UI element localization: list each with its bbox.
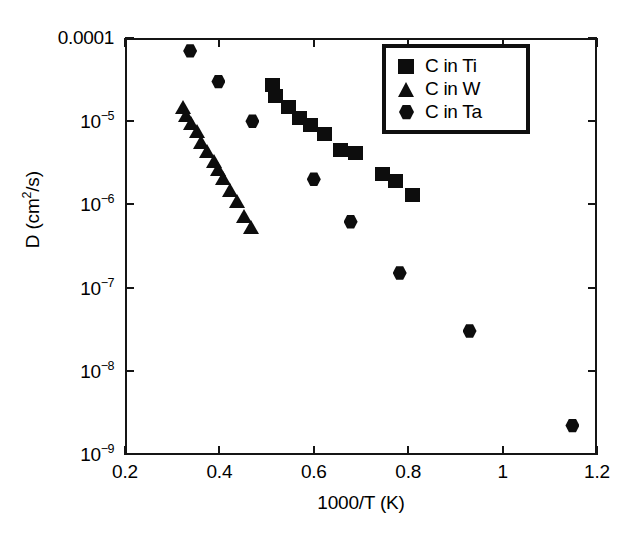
y-tick	[125, 203, 134, 205]
x-tick-label: 1.2	[584, 461, 610, 483]
y-tick-label: 10−7	[80, 276, 114, 299]
y-tick	[125, 453, 134, 455]
y-tick-label: 10−5	[80, 110, 114, 133]
y-tick	[125, 120, 134, 122]
y-tick	[588, 370, 597, 372]
y-tick	[588, 287, 597, 289]
y-tick	[125, 287, 134, 289]
x-tick-label: 0.8	[395, 461, 421, 483]
legend-item-label: C in Ti	[425, 55, 477, 77]
diffusion-arrhenius-chart: 0.20.40.60.811.2 0.000110−510−610−710−81…	[0, 0, 639, 542]
x-tick-label: 0.2	[112, 461, 138, 483]
legend-item-label: C in Ta	[425, 101, 482, 123]
y-axis-label: D (cm2/s)	[20, 120, 43, 300]
y-tick-label: 10−8	[80, 359, 114, 382]
x-axis-label: 1000/T (K)	[125, 492, 597, 514]
legend-item: C in Ti	[396, 54, 524, 77]
y-tick-label: 10−9	[80, 442, 114, 465]
triangle-marker-icon	[396, 79, 418, 99]
x-tick	[218, 38, 220, 47]
square-marker-icon	[396, 56, 418, 76]
x-tick-label: 0.6	[301, 461, 327, 483]
y-tick	[588, 203, 597, 205]
y-tick-label: 10−6	[80, 193, 114, 216]
y-tick	[588, 453, 597, 455]
legend: C in Ti C in W C in Ta	[382, 44, 530, 134]
x-tick-label: 1	[497, 461, 507, 483]
y-tick	[588, 120, 597, 122]
hexagon-marker-icon	[396, 102, 418, 122]
legend-item: C in Ta	[396, 100, 524, 123]
y-tick-label: 0.0001	[58, 27, 114, 49]
x-tick-label: 0.4	[206, 461, 232, 483]
x-tick	[596, 38, 598, 47]
y-tick	[125, 37, 134, 39]
x-tick	[124, 38, 126, 47]
y-tick	[125, 370, 134, 372]
legend-item: C in W	[396, 77, 524, 100]
y-tick	[588, 37, 597, 39]
x-tick	[502, 446, 504, 455]
x-tick	[218, 446, 220, 455]
x-tick	[407, 446, 409, 455]
x-tick	[313, 446, 315, 455]
y-axis-tick-labels: 0.000110−510−610−710−810−9	[0, 0, 114, 542]
x-tick	[313, 38, 315, 47]
legend-item-label: C in W	[425, 78, 480, 100]
